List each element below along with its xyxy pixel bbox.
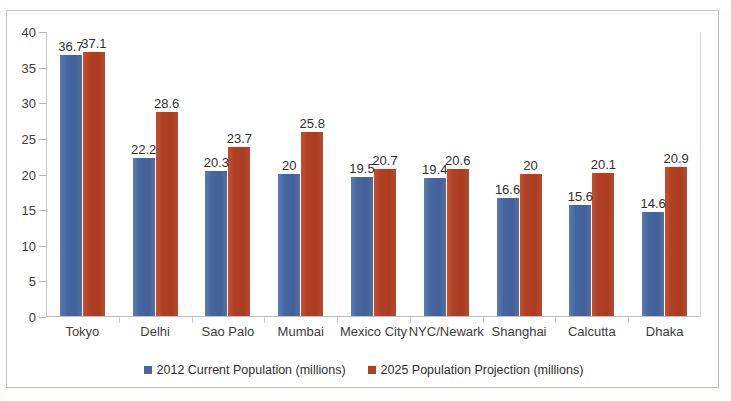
bar-value-label: 16.6 (495, 182, 520, 197)
y-axis-tick-label: 20 (22, 167, 36, 182)
legend-item[interactable]: 2025 Population Projection (millions) (368, 363, 584, 377)
bar (497, 198, 519, 316)
chart-screenshot: 0510152025303540 36.737.122.228.620.323.… (0, 0, 731, 401)
bar (83, 52, 105, 316)
y-axis-tick-label: 40 (22, 25, 36, 40)
x-axis-separator (119, 317, 120, 323)
y-axis-tick-label: 35 (22, 60, 36, 75)
bar (569, 205, 591, 316)
x-axis-separator (483, 317, 484, 323)
bar-value-label: 20.9 (663, 151, 688, 166)
legend-label: 2025 Population Projection (millions) (381, 363, 584, 377)
x-axis-category-label: Delhi (140, 324, 170, 339)
bar-value-label: 19.5 (349, 161, 374, 176)
bar (60, 55, 82, 316)
y-axis-tick (39, 281, 46, 282)
y-axis-tick (39, 139, 46, 140)
bar-value-label: 20 (282, 158, 296, 173)
x-axis-category-labels: TokyoDelhiSao PaloMumbaiMexico CityNYC/N… (46, 324, 701, 342)
x-axis-separator (192, 317, 193, 323)
bar-value-label: 37.1 (81, 36, 106, 51)
legend-swatch-icon (368, 366, 376, 374)
plot-right-border (700, 32, 701, 317)
x-axis-line (46, 316, 701, 317)
bar-value-label: 28.6 (154, 96, 179, 111)
bar (665, 167, 687, 316)
bar (351, 177, 373, 316)
bar-value-label: 20.6 (445, 153, 470, 168)
y-axis-tick (39, 68, 46, 69)
y-axis-tick (39, 246, 46, 247)
x-axis-category-label: Mexico City (340, 324, 407, 339)
x-axis-separator (410, 317, 411, 323)
x-axis-category-label: Shanghai (492, 324, 547, 339)
y-axis-tick-label: 25 (22, 131, 36, 146)
legend-label: 2012 Current Population (millions) (157, 363, 346, 377)
y-axis-tick-label: 30 (22, 96, 36, 111)
cut-off-title-remnant (0, 0, 731, 9)
bar (424, 178, 446, 316)
y-axis-tick-label: 10 (22, 238, 36, 253)
bar-value-label: 20.7 (372, 153, 397, 168)
bar (205, 171, 227, 316)
bar (228, 147, 250, 316)
x-axis-category-label: Sao Palo (202, 324, 255, 339)
bar-value-label: 36.7 (58, 39, 83, 54)
x-axis-separator (628, 317, 629, 323)
y-axis-tick (39, 317, 46, 318)
bar-value-label: 19.4 (422, 162, 447, 177)
plot-area: 0510152025303540 36.737.122.228.620.323.… (46, 32, 701, 317)
y-axis-tick (39, 103, 46, 104)
x-axis-category-label: NYC/Newark (409, 324, 484, 339)
y-axis-tick (39, 175, 46, 176)
legend-swatch-icon (144, 366, 152, 374)
bar (278, 174, 300, 317)
bar (642, 212, 664, 316)
bar (156, 112, 178, 316)
y-axis-tick (39, 32, 46, 33)
x-axis-category-label: Tokyo (65, 324, 99, 339)
bar-value-label: 20.1 (591, 157, 616, 172)
bar-value-label: 23.7 (227, 131, 252, 146)
x-axis-separator (337, 317, 338, 323)
bar-value-label: 20.3 (204, 155, 229, 170)
bar (374, 169, 396, 316)
y-axis-line (46, 32, 47, 317)
bar-value-label: 15.6 (568, 189, 593, 204)
bar-value-label: 22.2 (131, 142, 156, 157)
x-axis-category-label: Mumbai (278, 324, 324, 339)
bar (133, 158, 155, 316)
x-axis-category-label: Dhaka (646, 324, 684, 339)
legend-item[interactable]: 2012 Current Population (millions) (144, 363, 346, 377)
x-axis-category-label: Calcutta (568, 324, 616, 339)
y-axis-tick-label: 15 (22, 203, 36, 218)
x-axis-separator (555, 317, 556, 323)
chart-frame: 0510152025303540 36.737.122.228.620.323.… (6, 10, 719, 388)
y-axis-tick (39, 210, 46, 211)
bar-value-label: 14.6 (640, 196, 665, 211)
x-axis-separator (264, 317, 265, 323)
chart-legend: 2012 Current Population (millions)2025 P… (7, 363, 720, 377)
bar (520, 174, 542, 317)
y-axis-tick-label: 5 (29, 274, 36, 289)
bar (592, 173, 614, 316)
bar (447, 169, 469, 316)
bar (301, 132, 323, 316)
y-axis-tick-label: 0 (29, 310, 36, 325)
bar-value-label: 20 (523, 158, 537, 173)
bar-value-label: 25.8 (300, 116, 325, 131)
